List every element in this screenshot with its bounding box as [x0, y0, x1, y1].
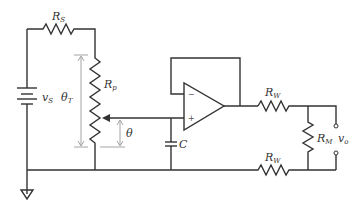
- series-resistor: RS: [27, 10, 95, 55]
- wire-resistor-top-label: RW: [264, 86, 281, 100]
- output-terminals: vo: [334, 124, 348, 170]
- wiper-angle-dimension: θ: [100, 120, 133, 147]
- wire-resistor-top: RW: [258, 86, 336, 124]
- output-terminal-bottom: [334, 151, 338, 155]
- source-label: vS: [42, 91, 53, 105]
- potentiometer: Rp: [90, 55, 117, 170]
- series-resistor-label: RS: [51, 10, 65, 24]
- potentiometer-label: Rp: [103, 78, 117, 92]
- opamp-plus-label: +: [188, 114, 195, 123]
- wiper-angle-label: θ: [126, 127, 133, 140]
- opamp-minus-label: −: [188, 90, 195, 99]
- wire-resistor-bottom: RW: [27, 151, 336, 175]
- output-terminal-top: [334, 124, 338, 128]
- capacitor-label: C: [179, 138, 188, 151]
- total-angle-label: θT: [61, 91, 74, 105]
- output-label: vo: [338, 132, 348, 146]
- battery-icon: [17, 88, 37, 104]
- wire-resistor-bottom-label: RW: [264, 151, 281, 165]
- circuit-diagram: vS RS Rp θT θ: [0, 0, 362, 207]
- total-angle-dimension: θT: [61, 55, 88, 147]
- source-branch: vS: [17, 29, 53, 199]
- opamp: − +: [171, 58, 258, 130]
- meter-resistor-label: RM: [316, 132, 333, 146]
- arrow-left-icon: [102, 114, 110, 122]
- meter-resistor: RM: [303, 106, 333, 170]
